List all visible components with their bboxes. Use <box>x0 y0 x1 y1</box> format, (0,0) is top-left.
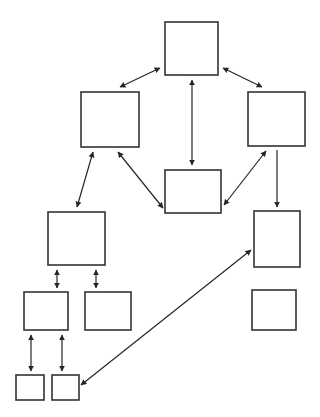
node-box-n11[interactable] <box>252 290 296 330</box>
edge-n2-n4 <box>118 152 163 208</box>
edge-n1-n2 <box>120 68 160 87</box>
node-box-n1[interactable] <box>165 22 218 75</box>
node-box-n3[interactable] <box>248 92 305 146</box>
node-box-n5[interactable] <box>48 212 105 265</box>
node-box-n6[interactable] <box>24 292 68 330</box>
node-box-n4[interactable] <box>165 170 221 213</box>
diagram-canvas <box>0 0 320 417</box>
nodes-layer <box>16 22 305 400</box>
node-box-n9[interactable] <box>52 375 79 400</box>
node-box-n7[interactable] <box>85 292 131 330</box>
node-box-n2[interactable] <box>81 92 139 147</box>
diagram-graph <box>0 0 320 417</box>
edge-n2-n5 <box>77 152 93 207</box>
node-box-n10[interactable] <box>254 211 300 267</box>
edge-n1-n3 <box>223 68 262 87</box>
edge-n4-n3 <box>224 151 266 205</box>
node-box-n8[interactable] <box>16 375 44 400</box>
